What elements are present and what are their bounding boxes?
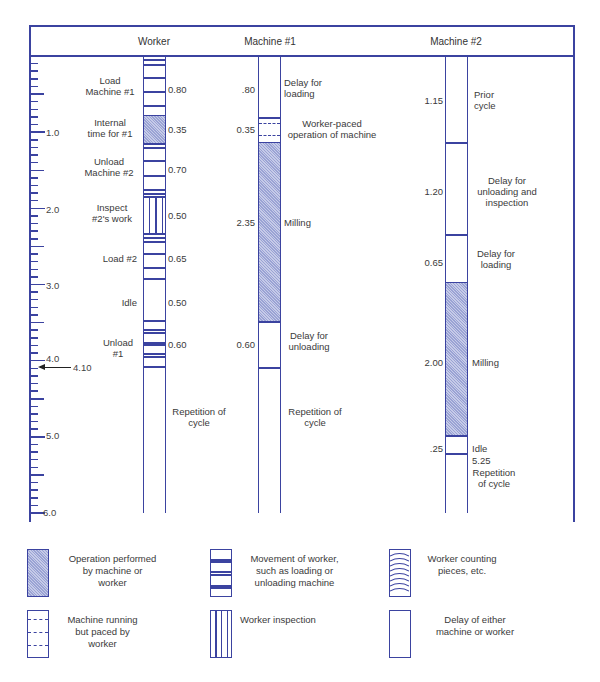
scale-tick [31, 467, 38, 469]
scale-tick [31, 101, 38, 103]
worker-activity-1-label: LoadMachine #1 [80, 75, 140, 97]
machine1-milling-segment [259, 143, 280, 321]
scale-tick [31, 322, 44, 324]
scale-tick [31, 482, 38, 484]
machine2-time-4: 2.00 [405, 357, 443, 368]
worker-time-6: 0.50 [168, 297, 187, 308]
machine1-time-2: 0.35 [220, 124, 255, 135]
scale-tick [31, 337, 38, 339]
legend-machine-paced-label: Machine runningbut paced byworker [55, 614, 150, 650]
machine2-activity-5-label: Idle [472, 443, 487, 454]
scale-tick [31, 139, 38, 141]
scale-tick [31, 307, 38, 309]
scale-tick [31, 269, 38, 271]
scale-tick [31, 444, 38, 446]
scale-tick [31, 428, 38, 430]
scale-label-1: 1.0 [46, 127, 59, 138]
scale-label-5: 5.0 [46, 430, 59, 441]
arrow-left-icon [38, 364, 45, 370]
machine2-repetition-label: Repetitionof cycle [468, 467, 520, 489]
scale-tick [31, 505, 38, 507]
scale-tick [31, 261, 38, 263]
scale-tick [31, 215, 38, 217]
scale-tick [31, 185, 38, 187]
column-header-machine2: Machine #2 [416, 36, 496, 47]
machine2-milling-segment [446, 283, 467, 435]
scale-tick [31, 192, 38, 194]
scale-tick [31, 131, 45, 133]
scale-tick [31, 489, 38, 491]
scale-tick [31, 200, 38, 202]
scale-tick [31, 436, 45, 438]
scale-tick [31, 246, 44, 248]
worker-activity-4-label: Inspect#2's work [86, 202, 138, 224]
scale-tick [31, 497, 38, 499]
scale-tick [31, 78, 38, 80]
scale-label-4: 4.0 [46, 353, 59, 364]
scale-tick [31, 284, 45, 286]
worker-repetition-label: Repetition ofcycle [164, 406, 234, 428]
scale-tick [31, 329, 38, 331]
scale-tick [31, 70, 38, 72]
worker-internal-time-segment [144, 116, 165, 143]
worker-inspection-segment [144, 196, 165, 233]
machine1-time-4: 0.60 [220, 339, 255, 350]
legend-movement-icon [210, 549, 232, 597]
machine2-time-3: 0.65 [405, 257, 443, 268]
legend-operation-label: Operation performedby machine orworker [55, 553, 170, 589]
machine1-time-3: 2.35 [220, 217, 255, 228]
legend-delay-label: Delay of eithermachine or worker [420, 614, 530, 638]
scale-tick [31, 291, 38, 293]
scale-tick [31, 208, 45, 210]
scale-tick [31, 368, 38, 370]
scale-tick [31, 451, 38, 453]
machine1-activity-3-label: Milling [284, 217, 311, 228]
worker-time-5: 0.65 [168, 253, 187, 264]
worker-time-3: 0.70 [168, 164, 187, 175]
scale-label-3: 3.0 [46, 280, 59, 291]
legend-counting-icon [389, 549, 411, 597]
scale-tick [31, 238, 38, 240]
machine2-end-time: 5.25 [472, 455, 491, 466]
machine1-activity-1-label: Delay forloading [284, 77, 322, 99]
scale-tick [31, 276, 38, 278]
worker-activity-2-label: Internaltime for #1 [80, 117, 140, 139]
scale-tick [31, 474, 44, 476]
machine1-bar [258, 56, 281, 513]
scale-tick [31, 86, 38, 88]
scale-tick [31, 116, 38, 118]
worker-activity-6-label: Idle [80, 297, 137, 308]
scale-tick [31, 398, 44, 400]
legend-delay-icon [389, 610, 411, 658]
scale-tick [31, 124, 38, 126]
machine2-bar [445, 56, 468, 513]
scale-tick [31, 253, 38, 255]
machine2-activity-2-label: Delay forunloading andinspection [470, 175, 544, 208]
column-header-worker: Worker [124, 36, 184, 47]
scale-label-6: 6.0 [43, 507, 56, 518]
machine1-activity-4-label: Delay forunloading [284, 330, 334, 352]
worker-time-4: 0.50 [168, 210, 187, 221]
scale-tick [31, 162, 38, 164]
worker-activity-5-label: Load #2 [80, 253, 137, 264]
scale-tick [31, 314, 38, 316]
scale-tick [31, 375, 38, 377]
machine1-repetition-label: Repetition ofcycle [280, 406, 350, 428]
header-divider [29, 55, 575, 57]
scale-label-2: 2.0 [46, 204, 59, 215]
worker-activity-3-label: UnloadMachine #2 [78, 156, 140, 178]
worker-bar [143, 56, 166, 513]
legend-movement-label: Movement of worker,such as loading orunl… [237, 553, 352, 589]
machine2-activity-4-label: Milling [472, 357, 499, 368]
scale-tick [31, 147, 38, 149]
worker-activity-7-label: Unload#1 [98, 337, 138, 359]
machine1-time-1: .80 [220, 84, 255, 95]
scale-tick [31, 360, 45, 362]
legend-counting-label: Worker countingpieces, etc. [412, 553, 512, 577]
scale-tick [31, 390, 38, 392]
scale-tick [31, 459, 38, 461]
scale-tick [31, 177, 38, 179]
worker-time-1: 0.80 [168, 84, 187, 95]
worker-time-2: 0.35 [168, 124, 187, 135]
scale-tick [31, 223, 38, 225]
